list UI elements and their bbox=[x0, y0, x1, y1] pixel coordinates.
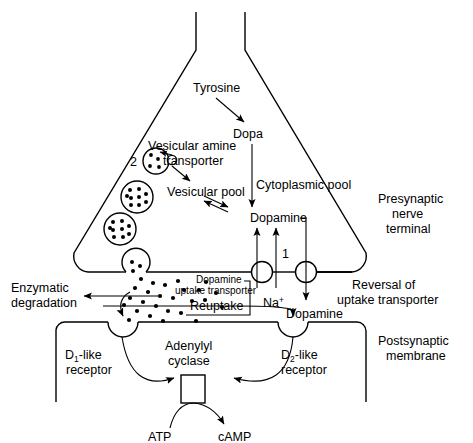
presynaptic-line1: Presynaptic bbox=[378, 192, 443, 206]
d2-receptor-line2: receptor bbox=[281, 363, 327, 377]
dopamine-uptake-line1: Dopamine bbox=[196, 274, 242, 285]
enzymatic-line1: Enzymatic bbox=[11, 281, 69, 295]
camp-label: cAMP bbox=[218, 430, 251, 443]
d1-receptor-pocket bbox=[108, 322, 138, 337]
postsynaptic-membrane-outline bbox=[56, 322, 366, 402]
presynaptic-line3: terminal bbox=[386, 222, 430, 236]
enzymatic-line2: degradation bbox=[11, 296, 77, 310]
svg-text:D1-like: D1-like bbox=[65, 348, 102, 364]
atp-to-cyclase-curve bbox=[170, 403, 193, 428]
adenylyl-line1: Adenylyl bbox=[165, 339, 212, 353]
vesicle-full-upper bbox=[121, 181, 153, 213]
presynaptic-line2: nerve bbox=[392, 207, 423, 221]
tyrosine-to-dopa-arrow bbox=[216, 98, 244, 122]
d2-receptor-label: D2-like receptor bbox=[281, 348, 327, 377]
vesicular-amine-transporter-line2: transporter bbox=[163, 154, 223, 168]
dopa-label: Dopa bbox=[233, 127, 263, 141]
postsynaptic-membrane-label: Postsynaptic membrane bbox=[378, 334, 449, 363]
dopamine-uptake-transporter-icon bbox=[252, 262, 273, 283]
adenylyl-cyclase-body bbox=[181, 375, 205, 403]
transporter-step-label: 1 bbox=[282, 247, 289, 261]
presynaptic-terminal-label: Presynaptic nerve terminal bbox=[378, 192, 443, 236]
dopamine-synapse-figure: Tyrosine Dopa Cytoplasmic pool Dopamine … bbox=[0, 0, 473, 443]
postsynaptic-line1: Postsynaptic bbox=[378, 334, 449, 348]
atp-label: ATP bbox=[148, 430, 171, 443]
vesicular-pool-arrow bbox=[172, 166, 190, 181]
d1-receptor-label: D1-like receptor bbox=[65, 348, 112, 377]
cyclase-to-camp-arrow bbox=[193, 403, 224, 424]
diagram-canvas: Tyrosine Dopa Cytoplasmic pool Dopamine … bbox=[0, 0, 473, 443]
vesicle-full-lower bbox=[104, 213, 136, 245]
cytoplasmic-pool-label: Cytoplasmic pool bbox=[256, 178, 351, 192]
vesicular-amine-transporter-line1: Vesicular amine bbox=[148, 139, 236, 153]
dopamine-cytoplasmic-label: Dopamine bbox=[250, 211, 307, 225]
dopamine-released-label: Dopamine bbox=[286, 307, 343, 321]
d1-receptor-line2: receptor bbox=[66, 363, 112, 377]
vesicle-count-label: 2 bbox=[130, 155, 137, 169]
reversal-line1: Reversal of bbox=[352, 278, 416, 292]
adenylyl-line2: cyclase bbox=[168, 354, 210, 368]
postsynaptic-line2: membrane bbox=[386, 349, 446, 363]
vesicle-fusing bbox=[122, 248, 150, 273]
tyrosine-label: Tyrosine bbox=[193, 81, 240, 95]
reversal-line2: uptake transporter bbox=[337, 293, 438, 307]
d2-receptor-pocket bbox=[278, 322, 308, 337]
